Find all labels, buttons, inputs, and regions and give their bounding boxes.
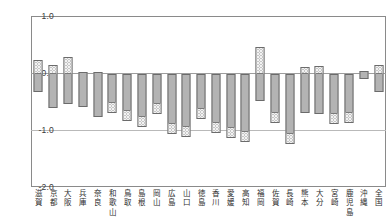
bar-cap-top [301, 68, 308, 74]
x-tick-label-岡山: 岡 山 [149, 189, 164, 208]
bar-slot [238, 16, 253, 187]
x-tick-label-宮崎: 宮 崎 [327, 189, 342, 208]
bar-slot [223, 16, 238, 187]
x-tick-label-奈良: 奈 良 [90, 189, 105, 208]
chart-container: 1.0%0.0-1.0-2.0 滋 賀京 都大 阪兵 庫奈 良和 歌 山鳥 取島… [0, 0, 389, 220]
bar-slot [253, 16, 268, 187]
bar-slot [282, 16, 297, 187]
x-tick-label-徳島: 徳 島 [194, 189, 209, 208]
bar-奈良[interactable] [93, 72, 102, 118]
bar-高知[interactable] [241, 74, 250, 142]
bar-slot [327, 16, 342, 187]
bar-和歌山[interactable] [108, 74, 117, 113]
x-tick-label-滋賀: 滋 賀 [31, 189, 46, 208]
x-tick-label-高知: 高 知 [238, 189, 253, 208]
bar-長崎[interactable] [285, 74, 294, 144]
x-tick-label-広島: 広 島 [164, 189, 179, 208]
bar-slot [268, 16, 283, 187]
bar-slot [75, 16, 90, 187]
bar-cap-bottom [124, 110, 131, 120]
bar-佐賀[interactable] [271, 74, 280, 123]
bar-岡山[interactable] [152, 74, 161, 114]
bar-島根[interactable] [137, 74, 146, 127]
bar-slot [105, 16, 120, 187]
x-tick-label-愛媛: 愛 媛 [223, 189, 238, 208]
bar-cap-top [257, 48, 264, 74]
bar-slot [194, 16, 209, 187]
bar-slot [31, 16, 46, 187]
x-tick-label-山口: 山 口 [179, 189, 194, 208]
bar-slot [209, 16, 224, 187]
bar-slot [356, 16, 371, 187]
bar-slot [342, 16, 357, 187]
bar-滋賀[interactable] [34, 60, 43, 91]
bar-cap-bottom [168, 123, 175, 133]
bar-京都[interactable] [49, 65, 58, 108]
x-tick-label-京都: 京 都 [46, 189, 61, 208]
bar-福岡[interactable] [256, 47, 265, 101]
bar-香川[interactable] [211, 74, 220, 133]
bar-大分[interactable] [315, 66, 324, 114]
bar-cap-bottom [286, 133, 293, 143]
bar-cap-bottom [198, 108, 205, 118]
bar-slot [312, 16, 327, 187]
bar-沖縄[interactable] [359, 71, 368, 78]
x-tick-label-佐賀: 佐 賀 [268, 189, 283, 208]
x-tick-label-鹿児島: 鹿 児 島 [342, 189, 357, 217]
bar-熊本[interactable] [300, 67, 309, 113]
x-tick-label-香川: 香 川 [209, 189, 224, 208]
bar-slot [90, 16, 105, 187]
bar-兵庫[interactable] [78, 72, 87, 107]
bar-slot [135, 16, 150, 187]
bar-slot [46, 16, 61, 187]
x-tick-label-兵庫: 兵 庫 [75, 189, 90, 208]
x-tick-label-熊本: 熊 本 [297, 189, 312, 208]
x-tick-label-大阪: 大 阪 [61, 189, 76, 208]
x-tick-label-和歌山: 和 歌 山 [105, 189, 120, 217]
bar-series-layer [31, 16, 386, 187]
bar-広島[interactable] [167, 74, 176, 134]
bar-鹿児島[interactable] [345, 74, 354, 123]
bar-鳥取[interactable] [123, 74, 132, 121]
x-tick-label-島根: 島 根 [135, 189, 150, 208]
bar-cap-bottom [153, 103, 160, 113]
bar-cap-bottom [212, 122, 219, 132]
bar-cap-top [375, 66, 382, 74]
bar-全国[interactable] [374, 65, 383, 92]
x-tick-label-長崎: 長 崎 [282, 189, 297, 208]
bar-cap-bottom [227, 127, 234, 137]
bar-cap-top [316, 67, 323, 74]
x-tick-label-福岡: 福 岡 [253, 189, 268, 208]
bar-cap-bottom [183, 126, 190, 136]
bar-徳島[interactable] [197, 74, 206, 118]
x-tick-label-鳥取: 鳥 取 [120, 189, 135, 208]
bar-cap-top [50, 66, 57, 74]
bar-愛媛[interactable] [226, 74, 235, 138]
x-tick-label-全国: 全 国 [371, 189, 386, 208]
bar-slot [179, 16, 194, 187]
bar-cap-top [64, 58, 71, 74]
bar-cap-bottom [331, 113, 338, 123]
bar-cap-bottom [109, 102, 116, 112]
bar-cap-bottom [138, 116, 145, 126]
bar-cap-bottom [272, 112, 279, 122]
bar-slot [120, 16, 135, 187]
x-axis-tick-labels: 滋 賀京 都大 阪兵 庫奈 良和 歌 山鳥 取島 根岡 山広 島山 口徳 島香 … [31, 189, 386, 220]
x-tick-label-沖縄: 沖 縄 [356, 189, 371, 208]
bar-slot [297, 16, 312, 187]
bar-cap-top [35, 61, 42, 74]
bar-slot [371, 16, 386, 187]
bar-大阪[interactable] [63, 57, 72, 104]
bar-slot [61, 16, 76, 187]
bar-cap-bottom [242, 131, 249, 141]
bar-宮崎[interactable] [330, 74, 339, 124]
bar-slot [149, 16, 164, 187]
x-tick-label-大分: 大 分 [312, 189, 327, 208]
bar-slot [164, 16, 179, 187]
bar-cap-bottom [346, 112, 353, 122]
bar-山口[interactable] [182, 74, 191, 137]
